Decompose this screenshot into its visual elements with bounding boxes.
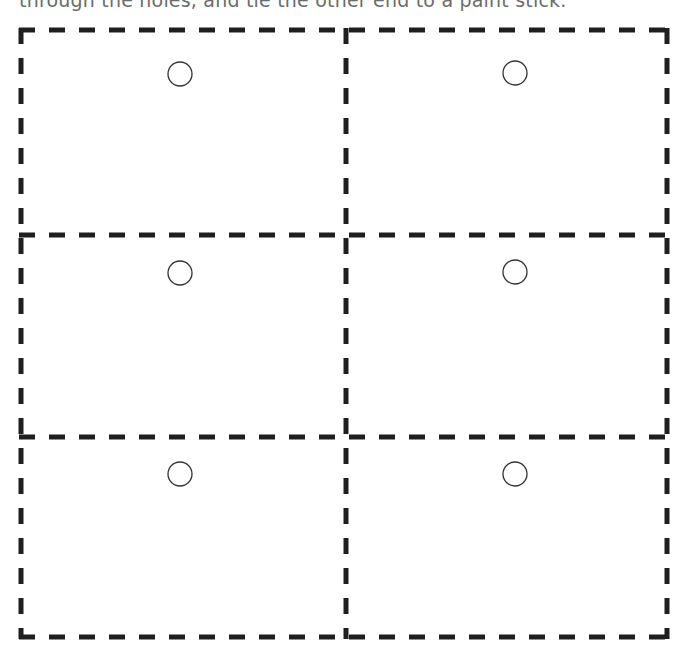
cutout-template [0,0,685,651]
hole-circle-icon [168,62,192,86]
dashed-cut-lines [19,28,669,639]
hole-circle-icon [503,61,527,85]
hole-circle-icon [503,462,527,486]
hole-circle-icon [168,261,192,285]
hole-circle-icon [168,462,192,486]
hole-circle-icon [503,260,527,284]
